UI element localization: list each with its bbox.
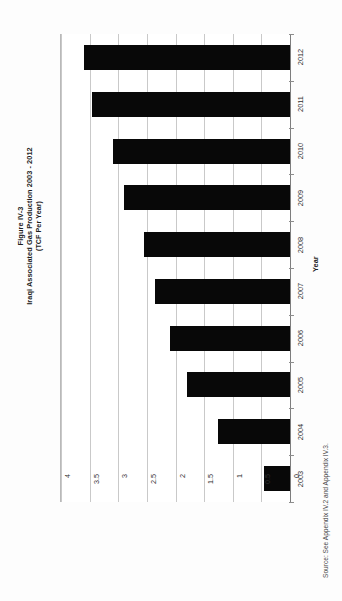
category-tick-mark bbox=[289, 174, 294, 175]
year-label-2003: 2003 bbox=[296, 462, 305, 496]
bar-2008 bbox=[144, 232, 290, 257]
value-tick-label-2-5: 2.5 bbox=[149, 474, 158, 508]
year-label-2011: 2011 bbox=[296, 87, 305, 121]
year-label-2009: 2009 bbox=[296, 181, 305, 215]
value-tick-label-3: 3 bbox=[120, 474, 129, 508]
category-tick-mark bbox=[289, 128, 294, 129]
category-tick-mark bbox=[289, 34, 294, 35]
category-tick-mark bbox=[289, 502, 294, 503]
year-label-2005: 2005 bbox=[296, 368, 305, 402]
bar-2011 bbox=[92, 92, 290, 117]
figure-units: (TCF Per Year) bbox=[35, 116, 44, 336]
bar-2007 bbox=[155, 279, 290, 304]
gridline-3-5 bbox=[90, 34, 91, 502]
bar-2009 bbox=[124, 185, 290, 210]
year-label-2008: 2008 bbox=[296, 228, 305, 262]
figure-title-block: Figure IV-3 Iraqi Associated Gas Product… bbox=[16, 116, 44, 336]
category-tick-mark bbox=[289, 221, 294, 222]
year-label-2007: 2007 bbox=[296, 274, 305, 308]
value-tick-label-0-5: 0.5 bbox=[263, 474, 272, 508]
bar-2005 bbox=[187, 372, 290, 397]
bar-2004 bbox=[218, 419, 290, 444]
year-label-2012: 2012 bbox=[296, 40, 305, 74]
chart-plot-area bbox=[60, 34, 291, 502]
figure-number: Figure IV-3 bbox=[16, 116, 25, 336]
value-tick-label-3-5: 3.5 bbox=[92, 474, 101, 508]
value-tick-label-1-5: 1.5 bbox=[206, 474, 215, 508]
value-tick-label-4: 4 bbox=[63, 474, 72, 508]
category-tick-mark bbox=[289, 362, 294, 363]
category-axis-title: Year bbox=[311, 256, 320, 272]
source-note: Source: See Appendix IV.2 and Appendix I… bbox=[322, 443, 329, 578]
value-tick-label-1: 1 bbox=[235, 474, 244, 508]
bar-2010 bbox=[113, 139, 290, 164]
category-tick-mark bbox=[289, 268, 294, 269]
gridline-4 bbox=[61, 34, 62, 502]
figure-page: Figure IV-3 Iraqi Associated Gas Product… bbox=[0, 0, 342, 601]
year-label-2004: 2004 bbox=[296, 415, 305, 449]
bar-2012 bbox=[84, 45, 290, 70]
year-label-2010: 2010 bbox=[296, 134, 305, 168]
category-tick-mark bbox=[289, 315, 294, 316]
category-tick-mark bbox=[289, 81, 294, 82]
year-label-2006: 2006 bbox=[296, 321, 305, 355]
bar-2006 bbox=[170, 326, 290, 351]
category-tick-mark bbox=[289, 455, 294, 456]
category-tick-mark bbox=[289, 408, 294, 409]
figure-title: Iraqi Associated Gas Production 2003 - 2… bbox=[25, 116, 34, 336]
value-tick-label-2: 2 bbox=[178, 474, 187, 508]
